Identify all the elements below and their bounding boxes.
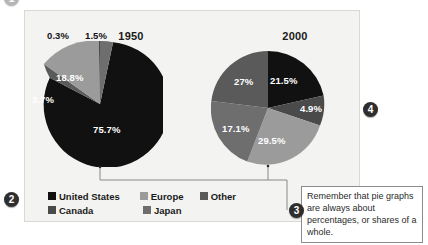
pie-2000-label-europe: 29.5%: [258, 135, 285, 146]
step-marker-4[interactable]: 4: [363, 102, 378, 117]
legend-swatch-japan: [143, 206, 151, 214]
legend-label-europe: Europe: [151, 191, 184, 202]
legend-row-1: United States Europe Other: [48, 189, 248, 203]
pie-2000-label-japan: 17.1%: [222, 123, 249, 134]
legend-swatch-other: [200, 192, 208, 200]
legend-label-other: Other: [211, 191, 236, 202]
pie-chart-1950: [37, 41, 163, 167]
pie-1950-label-japan: 3.7%: [32, 94, 54, 105]
legend-swatch-canada: [48, 206, 56, 214]
legend: United States Europe Other Canada Japan: [48, 189, 248, 217]
step-marker-2[interactable]: 2: [4, 192, 19, 207]
legend-item-canada[interactable]: Canada: [48, 205, 143, 216]
callout-note: Remember that pie graphs are always abou…: [301, 186, 423, 243]
pie-2000-label-united-states: 21.5%: [270, 75, 297, 86]
pie-1950-label-other: 0.3%: [47, 30, 69, 41]
step-marker-1[interactable]: 1: [4, 0, 19, 6]
pie-1950-label-canada: 1.5%: [85, 30, 107, 41]
callout-note-text: Remember that pie graphs are always abou…: [307, 190, 417, 238]
legend-item-other[interactable]: Other: [200, 191, 248, 202]
legend-item-europe[interactable]: Europe: [140, 191, 200, 202]
pie-1950-label-united-states: 75.7%: [93, 124, 120, 135]
pie-title-2000: 2000: [265, 30, 325, 42]
pie-2000-label-other: 27%: [234, 76, 253, 87]
legend-swatch-europe: [140, 192, 148, 200]
legend-label-united-states: United States: [59, 191, 120, 202]
legend-row-2: Canada Japan: [48, 203, 248, 217]
legend-label-japan: Japan: [154, 205, 181, 216]
pie-1950-svg: [37, 41, 163, 167]
legend-label-canada: Canada: [59, 205, 93, 216]
legend-item-united-states[interactable]: United States: [48, 191, 140, 202]
step-marker-3[interactable]: 3: [289, 203, 304, 218]
pie-1950-label-europe: 18.8%: [56, 72, 83, 83]
legend-item-japan[interactable]: Japan: [143, 205, 205, 216]
pie-2000-label-canada: 4.9%: [300, 103, 322, 114]
legend-swatch-united-states: [48, 192, 56, 200]
